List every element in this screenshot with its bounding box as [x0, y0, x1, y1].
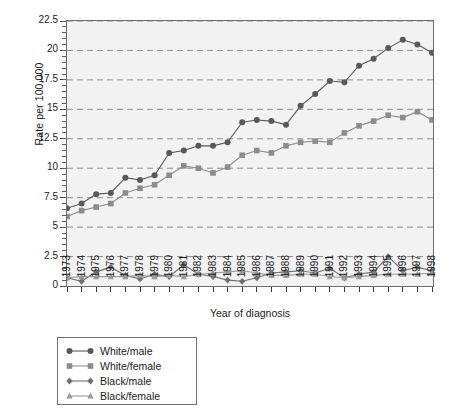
x-tick-label: 1987: [266, 255, 276, 277]
x-tick-label: 1993: [354, 255, 364, 277]
data-point-square: [137, 185, 143, 191]
x-tick-mark: [110, 287, 111, 292]
x-tick-mark: [286, 287, 287, 292]
data-point-circle: [181, 148, 187, 154]
legend-marker-diamond-icon: [65, 375, 95, 387]
legend-marker-triangle-icon: [65, 390, 95, 402]
data-point-square: [196, 165, 202, 171]
data-point-square: [342, 130, 348, 136]
x-tick-label: 1974: [77, 255, 87, 277]
legend-item: White/male: [65, 343, 189, 358]
data-point-square: [123, 190, 129, 196]
x-tick-mark: [344, 287, 345, 292]
data-point-square: [93, 204, 99, 210]
data-point-circle: [166, 150, 172, 156]
x-tick-mark: [213, 287, 214, 292]
data-point-circle: [225, 139, 231, 145]
data-point-square: [67, 363, 73, 369]
data-point-square: [298, 140, 304, 146]
x-tick-label: 1977: [120, 255, 130, 277]
x-tick-label: 1990: [310, 255, 320, 277]
x-tick-mark: [169, 287, 170, 292]
x-tick-mark: [373, 287, 374, 292]
x-tick-mark: [81, 287, 82, 292]
data-point-square: [239, 152, 245, 158]
data-point-square: [415, 109, 421, 115]
x-tick-label: 1989: [296, 255, 306, 277]
x-tick-label: 1984: [223, 255, 233, 277]
chart-legend: White/maleWhite/femaleBlack/maleBlack/fe…: [57, 337, 197, 405]
data-point-diamond: [239, 278, 245, 285]
plot-svg: [67, 21, 433, 286]
x-tick-mark: [125, 287, 126, 292]
data-point-circle: [93, 191, 99, 197]
x-tick-label: 1991: [325, 255, 335, 277]
data-point-circle: [298, 103, 304, 109]
legend-item: Black/male: [65, 373, 189, 388]
data-point-square: [152, 182, 158, 188]
data-point-square: [181, 163, 187, 169]
data-point-circle: [341, 79, 347, 85]
x-tick-mark: [140, 287, 141, 292]
data-point-square: [385, 112, 391, 118]
x-tick-mark: [315, 287, 316, 292]
x-tick-mark: [388, 287, 389, 292]
x-tick-mark: [402, 287, 403, 292]
legend-label: White/male: [100, 345, 153, 357]
series-white-female: [67, 109, 433, 219]
x-tick-label: 1985: [237, 255, 247, 277]
data-point-square: [108, 201, 114, 207]
data-point-circle: [400, 37, 406, 43]
data-point-circle: [122, 175, 128, 181]
data-point-square: [327, 140, 333, 146]
x-tick-label: 1992: [339, 255, 349, 277]
data-point-diamond: [224, 277, 230, 284]
data-point-square: [79, 208, 85, 214]
x-tick-label: 1988: [281, 255, 291, 277]
data-point-square: [312, 138, 318, 144]
data-point-circle: [371, 56, 377, 62]
x-tick-label: 1996: [398, 255, 408, 277]
data-point-square: [67, 214, 70, 220]
series-line: [67, 40, 432, 208]
y-tick-label: 15: [18, 103, 58, 113]
y-tick-label: 2.5: [18, 251, 58, 261]
data-point-circle: [195, 143, 201, 149]
x-tick-mark: [432, 287, 433, 292]
data-point-circle: [137, 177, 143, 183]
x-tick-label: 1975: [91, 255, 101, 277]
data-point-circle: [108, 190, 114, 196]
data-point-circle: [312, 91, 318, 97]
data-point-circle: [239, 119, 245, 125]
x-tick-label: 1994: [369, 255, 379, 277]
x-tick-label: 1979: [150, 255, 160, 277]
x-tick-mark: [198, 287, 199, 292]
y-tick-label: 20: [18, 44, 58, 54]
data-point-circle: [79, 201, 85, 207]
data-point-square: [356, 123, 362, 129]
legend-item: White/female: [65, 358, 189, 373]
x-tick-label: 1976: [106, 255, 116, 277]
x-tick-mark: [96, 287, 97, 292]
x-tick-mark: [227, 287, 228, 292]
x-tick-mark: [300, 287, 301, 292]
x-tick-label: 1980: [164, 255, 174, 277]
data-point-circle: [210, 143, 216, 149]
x-tick-label: 1995: [383, 255, 393, 277]
legend-label: Black/male: [100, 375, 151, 387]
data-point-square: [429, 117, 433, 123]
data-point-diamond: [66, 377, 72, 384]
data-point-square: [283, 143, 289, 149]
x-tick-label: 1983: [208, 255, 218, 277]
legend-label: White/female: [100, 360, 161, 372]
data-point-circle: [327, 78, 333, 84]
legend-marker-circle-icon: [65, 345, 95, 357]
data-point-square: [371, 118, 377, 124]
data-point-circle: [67, 348, 73, 354]
series-line: [67, 112, 432, 217]
x-tick-mark: [242, 287, 243, 292]
data-point-circle: [67, 205, 70, 211]
x-tick-mark: [359, 287, 360, 292]
x-tick-label: 1997: [412, 255, 422, 277]
x-axis-title: Year of diagnosis: [150, 307, 350, 319]
